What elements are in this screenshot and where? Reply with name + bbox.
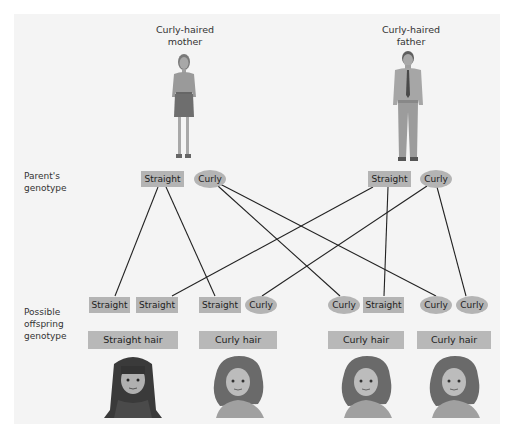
mother-allele-curly: Curly (194, 170, 226, 188)
mother-title-line2: mother (140, 36, 230, 48)
father-title: Curly-haired father (366, 24, 456, 48)
mother-figure-icon (166, 52, 202, 164)
father-title-line1: Curly-haired (366, 24, 456, 36)
offspring1-allele1: Straight (89, 297, 130, 313)
offspring2-phenotype: Curly hair (199, 331, 277, 349)
offspring-genotype-label-line1: Possible (24, 306, 67, 318)
parent-genotype-label-line1: Parent's (24, 170, 67, 182)
parent-genotype-label-line2: genotype (24, 182, 67, 194)
father-allele-straight: Straight (368, 171, 411, 187)
curly-hair-child-icon (334, 354, 400, 420)
offspring3-phenotype: Curly hair (328, 331, 404, 349)
offspring2-allele2: Curly (245, 296, 277, 314)
father-allele-curly: Curly (420, 170, 452, 188)
offspring1-allele2: Straight (136, 297, 178, 313)
offspring3-allele1: Curly (328, 296, 360, 314)
mother-allele-straight: Straight (141, 171, 184, 187)
curly-hair-child-icon (422, 354, 488, 420)
mother-title-line1: Curly-haired (140, 24, 230, 36)
offspring-genotype-label: Possible offspring genotype (24, 306, 67, 342)
offspring1-phenotype: Straight hair (88, 331, 178, 349)
offspring4-allele2: Curly (456, 296, 488, 314)
father-title-line2: father (366, 36, 456, 48)
mother-title: Curly-haired mother (140, 24, 230, 48)
offspring4-phenotype: Curly hair (417, 331, 491, 349)
offspring3-allele2: Straight (363, 297, 404, 313)
parent-genotype-label: Parent's genotype (24, 170, 67, 194)
father-figure-icon (390, 50, 426, 166)
offspring-genotype-label-line2: offspring (24, 318, 67, 330)
offspring2-allele1: Straight (199, 297, 241, 313)
straight-hair-child-icon (100, 354, 166, 420)
offspring4-allele1: Curly (420, 296, 452, 314)
offspring-genotype-label-line3: genotype (24, 330, 67, 342)
curly-hair-child-icon (206, 354, 272, 420)
